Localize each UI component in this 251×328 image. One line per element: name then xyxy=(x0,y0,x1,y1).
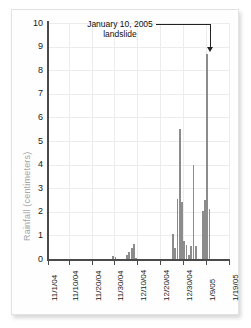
annotation-leader-vertical xyxy=(210,24,211,49)
y-tick-label: 3 xyxy=(25,184,43,193)
bar xyxy=(193,165,195,259)
x-tick-mark xyxy=(69,261,70,265)
x-tick-label: 11/10/04 xyxy=(72,270,80,301)
y-tick-label: 1 xyxy=(25,231,43,240)
annotation-arrow-icon xyxy=(207,47,213,52)
y-tick-label: 0 xyxy=(25,255,43,264)
x-tick-label: 1/9/05 xyxy=(209,279,217,301)
y-tick-label: 8 xyxy=(25,66,43,75)
x-tick-mark xyxy=(48,261,49,265)
bar-series xyxy=(48,23,229,259)
x-tick-label: 12/10/04 xyxy=(140,270,148,301)
annotation-line-1: January 10, 2005 xyxy=(87,19,153,29)
bar xyxy=(195,246,197,259)
x-tick-label: 12/30/04 xyxy=(186,270,194,301)
rainfall-chart-figure: Rainfall (centimeters) 012345678910 11/1… xyxy=(0,0,251,328)
annotation-leader-horizontal xyxy=(156,24,210,25)
y-tick-label: 4 xyxy=(25,160,43,169)
bar xyxy=(135,258,137,259)
chart-card: Rainfall (centimeters) 012345678910 11/1… xyxy=(11,9,239,315)
x-tick-mark xyxy=(206,261,207,265)
y-tick-label: 9 xyxy=(25,42,43,51)
x-tick-mark xyxy=(229,261,230,265)
bar xyxy=(209,209,211,259)
x-tick-label: 11/1/04 xyxy=(51,275,59,301)
x-tick-label: 11/30/04 xyxy=(117,270,125,301)
x-tick-mark xyxy=(137,261,138,265)
x-tick-label: 11/20/04 xyxy=(95,270,103,301)
bar xyxy=(133,244,135,259)
landslide-annotation: January 10, 2005 landslide xyxy=(70,19,170,39)
x-tick-mark xyxy=(183,261,184,265)
x-axis-line xyxy=(47,259,230,261)
x-tick-label: 12/20/04 xyxy=(163,270,171,301)
gridline-vertical xyxy=(229,23,230,259)
x-tick-label: 1/19/05 xyxy=(232,274,240,301)
annotation-line-2: landslide xyxy=(103,29,137,39)
y-tick-label: 7 xyxy=(25,89,43,98)
x-tick-mark xyxy=(114,261,115,265)
y-tick-label: 2 xyxy=(25,207,43,216)
bar xyxy=(115,257,117,259)
x-tick-mark xyxy=(160,261,161,265)
y-tick-label: 10 xyxy=(25,19,43,28)
y-tick-label: 6 xyxy=(25,113,43,122)
y-tick-label: 5 xyxy=(25,137,43,146)
x-tick-mark xyxy=(92,261,93,265)
